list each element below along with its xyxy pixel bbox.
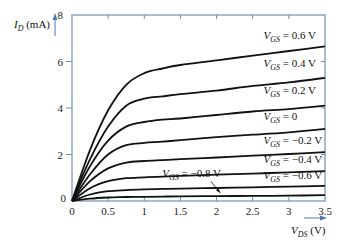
y-tick-label: 4: [58, 102, 64, 114]
x-tick-label: 2.5: [246, 205, 260, 217]
curve-label: VGS = 0.4 V: [264, 57, 317, 72]
curve-labels: VGS = 0.6 VVGS = 0.4 VVGS = 0.2 VVGS = 0…: [162, 29, 322, 192]
curve-label: VGS = −0.8 V: [162, 167, 221, 182]
x-tick-label: 1: [142, 205, 148, 217]
svg-text:VDS (V): VDS (V): [291, 224, 326, 239]
curve-label: VGS = 0: [264, 110, 298, 125]
svg-text:ID (mA): ID (mA): [13, 18, 50, 33]
y-axis-label: ID (mA): [13, 13, 58, 36]
y-tick-label: 0: [61, 192, 67, 204]
x-tick-label: 0.5: [101, 205, 115, 217]
x-tick-label: 1.5: [174, 205, 188, 217]
x-axis-label: VDS (V): [291, 216, 327, 240]
curve-label: VGS = 0.6 V: [264, 29, 317, 44]
id-vds-chart: 00.511.522.533.502468 VGS = 0.6 VVGS = 0…: [0, 0, 349, 246]
x-tick-label: 3: [286, 205, 292, 217]
curve-label: VGS = −0.2 V: [264, 134, 323, 149]
curve-label: VGS = 0.2 V: [264, 84, 317, 99]
curve-label: VGS = −0.6 V: [264, 169, 323, 184]
vgs-curve: [72, 186, 325, 201]
y-tick-label: 2: [58, 149, 64, 161]
x-tick-label: 0: [69, 205, 75, 217]
x-tick-label: 3.5: [318, 205, 332, 217]
x-tick-label: 2: [214, 205, 220, 217]
vgs-curve: [72, 195, 325, 201]
y-tick-label: 6: [58, 56, 64, 68]
y-tick-label: 8: [58, 9, 64, 21]
